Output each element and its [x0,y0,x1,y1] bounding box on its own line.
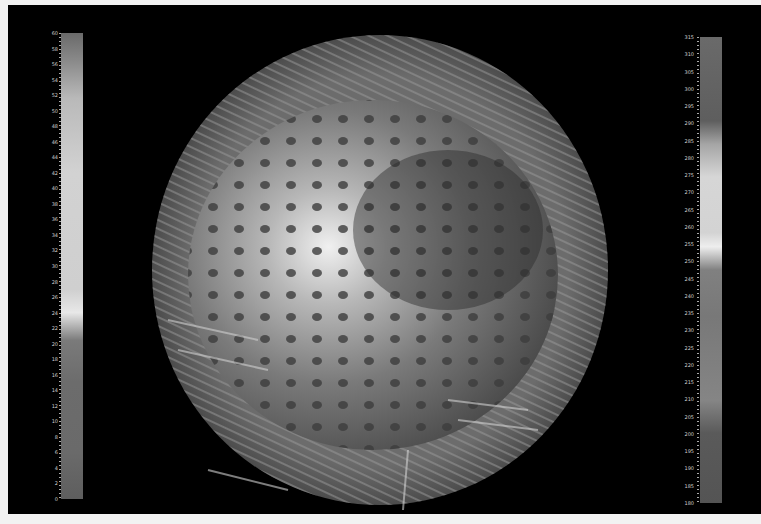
colorbar-tick-label: 265 [684,207,694,213]
colorbar-tick-label: 10 [52,418,58,424]
colorbar-tick-label: 36 [52,216,58,222]
colorbar-tick-label: 30 [52,263,58,269]
colorbar-tick-label: 200 [684,431,694,437]
vector-field-sphere[interactable] [148,20,618,514]
right-colorbar-tickmarks [697,37,699,503]
colorbar-tick-label: 24 [52,310,58,316]
colorbar-tick-label: 56 [52,61,58,67]
colorbar-tick-label: 310 [684,51,694,57]
colorbar-tick-label: 245 [684,276,694,282]
colorbar-tick-label: 12 [52,403,58,409]
colorbar-tick-label: 16 [52,372,58,378]
colorbar-tick-label: 4 [55,465,58,471]
colorbar-tick-label: 0 [55,496,58,502]
right-colorbar-tick-labels: 3153103053002952902852802752702652602552… [658,37,694,507]
colorbar-tick-label: 185 [684,483,694,489]
colorbar-tick-label: 255 [684,241,694,247]
colorbar-tick-label: 270 [684,189,694,195]
colorbar-tick-label: 210 [684,396,694,402]
colorbar-tick-label: 34 [52,232,58,238]
colorbar-tick-label: 295 [684,103,694,109]
colorbar-tick-label: 54 [52,77,58,83]
render-viewport[interactable]: 6058565452504846444240383634323028262422… [8,5,761,514]
colorbar-tick-label: 235 [684,310,694,316]
colorbar-tick-label: 44 [52,154,58,160]
colorbar-tick-label: 46 [52,139,58,145]
colorbar-tick-label: 40 [52,185,58,191]
colorbar-tick-label: 52 [52,92,58,98]
colorbar-tick-label: 285 [684,138,694,144]
colorbar-tick-label: 42 [52,170,58,176]
colorbar-tick-label: 38 [52,201,58,207]
colorbar-tick-label: 240 [684,293,694,299]
colorbar-tick-label: 260 [684,224,694,230]
left-colorbar [61,33,83,499]
colorbar-tick-label: 8 [55,434,58,440]
colorbar-tick-label: 6 [55,449,58,455]
colorbar-tick-label: 50 [52,108,58,114]
colorbar-tick-label: 215 [684,379,694,385]
colorbar-tick-label: 230 [684,327,694,333]
colorbar-tick-label: 26 [52,294,58,300]
left-colorbar-tick-labels: 6058565452504846444240383634323028262422… [28,33,58,503]
colorbar-tick-label: 305 [684,69,694,75]
colorbar-tick-label: 60 [52,30,58,36]
colorbar-tick-label: 250 [684,258,694,264]
colorbar-tick-label: 48 [52,123,58,129]
colorbar-tick-label: 22 [52,325,58,331]
colorbar-tick-label: 180 [684,500,694,506]
colorbar-tick-label: 290 [684,120,694,126]
colorbar-tick-label: 28 [52,279,58,285]
colorbar-tick-label: 32 [52,247,58,253]
colorbar-tick-label: 14 [52,387,58,393]
colorbar-tick-label: 220 [684,362,694,368]
colorbar-tick-label: 190 [684,465,694,471]
right-colorbar [700,37,722,503]
colorbar-tick-label: 315 [684,34,694,40]
colorbar-tick-label: 275 [684,172,694,178]
colorbar-tick-label: 195 [684,448,694,454]
colorbar-tick-label: 300 [684,86,694,92]
colorbar-tick-label: 225 [684,345,694,351]
colorbar-tick-label: 2 [55,480,58,486]
colorbar-tick-label: 280 [684,155,694,161]
colorbar-tick-label: 18 [52,356,58,362]
colorbar-tick-label: 205 [684,414,694,420]
inner-sphere [188,100,558,450]
colorbar-tick-label: 58 [52,46,58,52]
colorbar-tick-label: 20 [52,341,58,347]
